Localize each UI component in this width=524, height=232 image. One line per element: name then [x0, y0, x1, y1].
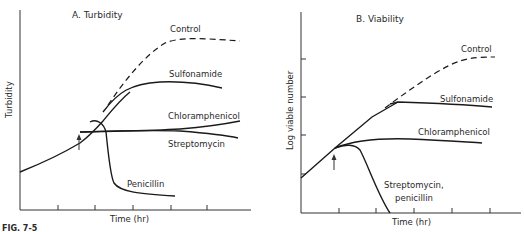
- x-axis-label: Time (hr): [109, 214, 149, 224]
- figure-caption: FIG. 7-5: [2, 224, 38, 232]
- label-penicillin: Penicillin: [127, 179, 164, 189]
- panel-viability: B. Viability Control Sulfonamide Chloram…: [285, 12, 521, 227]
- curve-baseline-growth: [20, 92, 130, 172]
- y-ticks: [301, 59, 306, 174]
- y-axis-label: Log viable number: [285, 70, 295, 150]
- curve-baseline-growth: [301, 102, 398, 178]
- curve-streptomycin-penicillin: [335, 145, 390, 213]
- label-streptomycin: Streptomycin,: [384, 180, 444, 190]
- label-control: Control: [461, 44, 492, 54]
- panel-title: B. Viability: [356, 14, 405, 24]
- panel-title: A. Turbidity: [72, 10, 123, 20]
- x-axis-label: Time (hr): [391, 217, 431, 227]
- label-chloramphenicol: Chloramphenicol: [168, 111, 240, 121]
- y-axis-label: Turbidity: [4, 81, 14, 119]
- label-sulfonamide: Sulfonamide: [169, 69, 222, 79]
- x-ticks: [339, 208, 490, 213]
- curve-streptomycin: [80, 131, 238, 138]
- panel-turbidity: A. Turbidity Control Sulfonamide Chloram…: [4, 10, 251, 224]
- x-ticks: [58, 205, 207, 210]
- curve-chloramphenicol: [335, 139, 482, 148]
- label-penicillin: penicillin: [395, 193, 433, 203]
- antibiotic-addition-arrow-icon: [332, 154, 337, 170]
- label-streptomycin: Streptomycin: [168, 139, 225, 149]
- label-sulfonamide: Sulfonamide: [440, 94, 493, 104]
- label-chloramphenicol: Chloramphenicol: [418, 127, 490, 137]
- figure-canvas: A. Turbidity Control Sulfonamide Chloram…: [0, 0, 524, 232]
- label-control: Control: [170, 24, 201, 34]
